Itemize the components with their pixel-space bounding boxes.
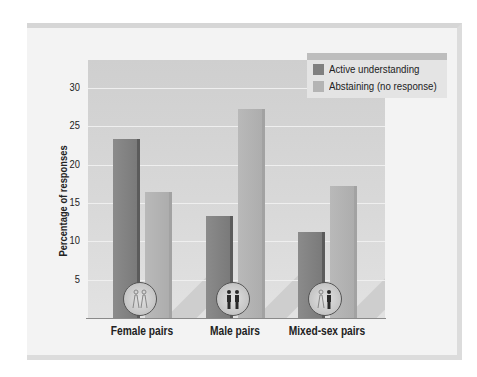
x-category-label: Male pairs bbox=[193, 324, 278, 338]
x-category-label: Female pairs bbox=[100, 324, 185, 338]
legend-label-active: Active understanding bbox=[329, 63, 419, 75]
two-men-icon bbox=[216, 282, 250, 316]
plot-area bbox=[88, 60, 385, 318]
y-tick-label: 5 bbox=[61, 273, 80, 285]
y-axis-label: Percentage of responses bbox=[57, 129, 69, 274]
x-category-label: Mixed-sex pairs bbox=[285, 324, 370, 338]
y-tick-label: 30 bbox=[61, 81, 80, 93]
legend-swatch-abstaining bbox=[313, 81, 324, 92]
legend-item-abstaining: Abstaining (no response) bbox=[313, 79, 451, 93]
legend: Active understanding Abstaining (no resp… bbox=[307, 53, 447, 98]
gridline bbox=[88, 126, 385, 127]
legend-label-abstaining: Abstaining (no response) bbox=[329, 80, 437, 92]
two-women-icon bbox=[123, 282, 157, 316]
woman-and-man-icon bbox=[308, 282, 342, 316]
x-axis-line bbox=[86, 318, 386, 319]
legend-item-active: Active understanding bbox=[313, 62, 432, 76]
legend-swatch-active bbox=[313, 64, 324, 75]
